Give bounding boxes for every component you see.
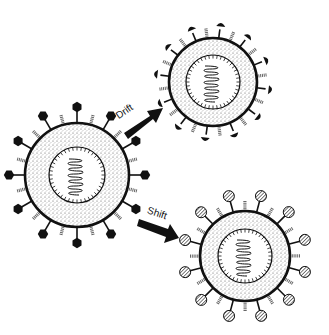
virus-shift-variant bbox=[180, 191, 311, 322]
virus-layer bbox=[4, 23, 311, 321]
antigenic-variation-diagram bbox=[0, 0, 329, 335]
virus-original bbox=[4, 102, 150, 248]
shift-arrow bbox=[137, 219, 179, 243]
virus-drift-variant bbox=[154, 23, 272, 141]
